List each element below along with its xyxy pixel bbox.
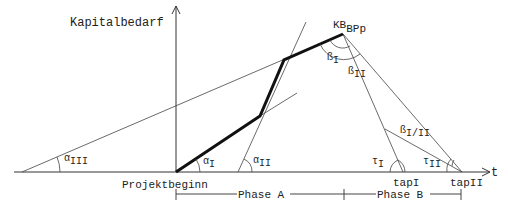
tau-II-label: τII <box>423 156 441 170</box>
beta-I-II-label: ßI/II <box>400 125 430 139</box>
capital-curve <box>176 34 343 172</box>
peak-label: KBBPp <box>333 19 366 35</box>
phase-b-label: Phase B <box>377 189 424 201</box>
tap1-label: tapI <box>393 177 419 189</box>
tau-I-label: τI <box>372 156 384 170</box>
tap2-label: tapII <box>450 177 483 189</box>
tau-I-arc <box>390 160 405 172</box>
capital-requirement-diagram: Kapitalbedarf t KBBPp Projektbeginn tapI… <box>0 0 508 219</box>
beta-I-label: ßI <box>327 52 339 66</box>
alpha-I-label: αI <box>203 156 215 170</box>
phase-a-label: Phase A <box>238 189 285 201</box>
alpha-II-label: αII <box>253 155 271 169</box>
alpha-III-arc <box>57 157 60 172</box>
y-axis-label: Kapitalbedarf <box>70 16 164 30</box>
origin-label: Projektbeginn <box>122 179 208 191</box>
alpha-III-label: αIII <box>64 153 88 167</box>
alpha-II-line <box>238 22 306 172</box>
alpha-II-arc <box>244 159 252 172</box>
beta-II-label: ßII <box>348 66 366 80</box>
alpha-I-arc <box>196 159 200 172</box>
tau-II-line <box>343 34 462 172</box>
x-axis-label: t <box>491 166 498 180</box>
tau-I-line <box>343 34 403 172</box>
